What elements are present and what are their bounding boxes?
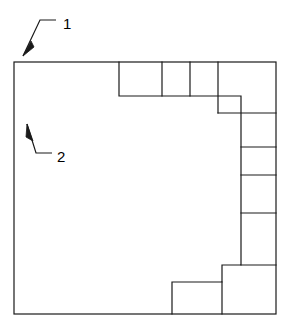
technical-line-drawing: 1 2 (0, 0, 290, 332)
callout-1-label: 1 (63, 15, 71, 32)
drawing-background (0, 0, 290, 332)
callout-2-label: 2 (57, 148, 65, 165)
diagram-root: 1 2 (0, 0, 290, 332)
